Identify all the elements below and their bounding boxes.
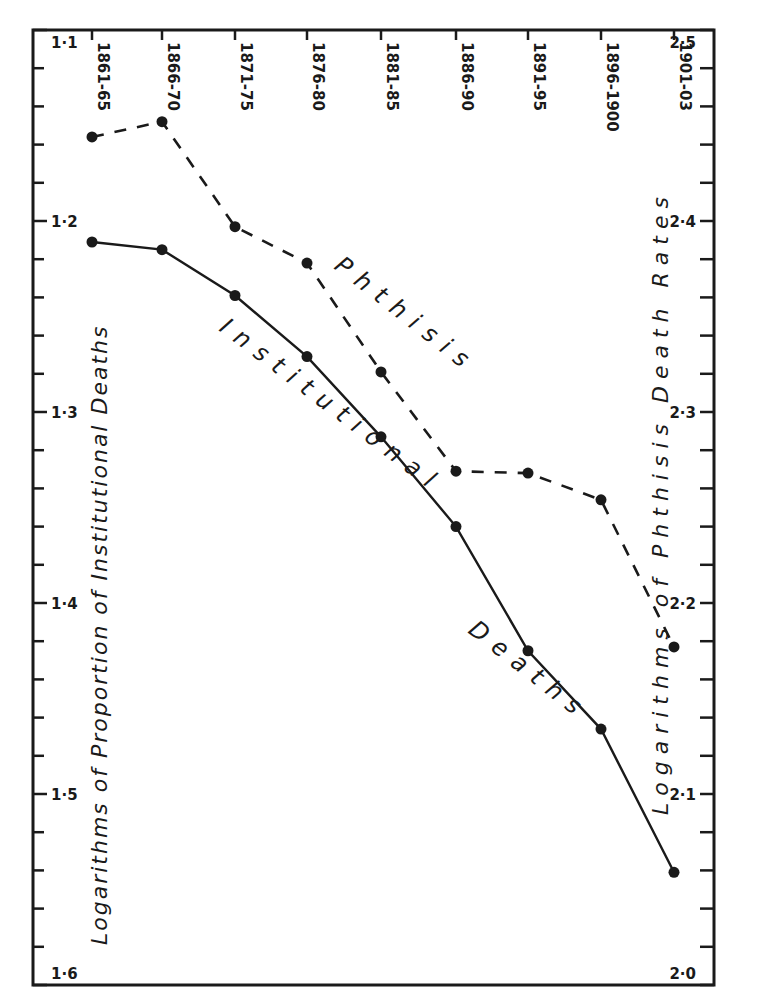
left-axis: 1·11·21·31·41·51·6: [33, 30, 78, 985]
category-axis-top: 1861-651866-701871-751876-801881-851886-…: [92, 30, 694, 132]
right-tick-label: 2·0: [669, 965, 696, 983]
right-axis-title: Logarithms of Phthisis Death Rates: [648, 195, 673, 815]
data-point: [230, 221, 241, 232]
series-line: [92, 122, 674, 647]
plot-border: [33, 30, 714, 985]
data-point: [157, 116, 168, 127]
data-point: [376, 366, 387, 377]
data-point: [523, 468, 534, 479]
left-axis-title: Logarithms of Proportion of Institutiona…: [87, 325, 112, 945]
category-label: 1866-70: [164, 42, 182, 111]
left-tick-label: 1·3: [51, 404, 78, 422]
data-point: [451, 521, 462, 532]
data-point: [157, 244, 168, 255]
data-point: [302, 351, 313, 362]
data-point: [669, 867, 680, 878]
category-label: 1876-80: [309, 42, 327, 111]
curve-label-phthisis: Phthisis: [329, 251, 482, 379]
category-label: 1901-03: [676, 42, 694, 111]
category-label: 1861-65: [94, 42, 112, 111]
series-institutional-deaths: [87, 237, 680, 878]
curve-label-institutional: Institutional: [214, 312, 449, 499]
left-tick-label: 1·1: [51, 34, 78, 52]
data-point: [302, 258, 313, 269]
left-tick-label: 1·6: [51, 965, 78, 983]
category-label: 1881-85: [383, 42, 401, 111]
data-point: [87, 131, 98, 142]
series-layer: [87, 116, 680, 878]
right-tick-label: 2·2: [669, 595, 696, 613]
right-axis: 2·52·42·32·22·12·0: [669, 30, 714, 985]
left-tick-label: 1·2: [51, 213, 78, 231]
series-line: [92, 242, 674, 872]
category-label: 1896-1900: [603, 42, 621, 132]
left-tick-label: 1·4: [51, 595, 78, 613]
left-tick-label: 1·5: [51, 786, 78, 804]
category-label: 1886-90: [458, 42, 476, 111]
data-point: [596, 724, 607, 735]
right-tick-label: 2·3: [669, 404, 696, 422]
chart-canvas: 1·11·21·31·41·51·6 2·52·42·32·22·12·0 18…: [0, 0, 772, 999]
category-label: 1871-75: [237, 42, 255, 111]
category-label: 1891-95: [530, 42, 548, 111]
data-point: [230, 290, 241, 301]
data-point: [451, 466, 462, 477]
series-phthisis: [87, 116, 680, 652]
data-point: [596, 494, 607, 505]
plot-frame: [33, 30, 714, 985]
data-point: [87, 237, 98, 248]
curve-label-deaths: Deaths: [463, 615, 595, 726]
right-tick-label: 2·1: [669, 786, 696, 804]
right-tick-label: 2·4: [669, 213, 696, 231]
